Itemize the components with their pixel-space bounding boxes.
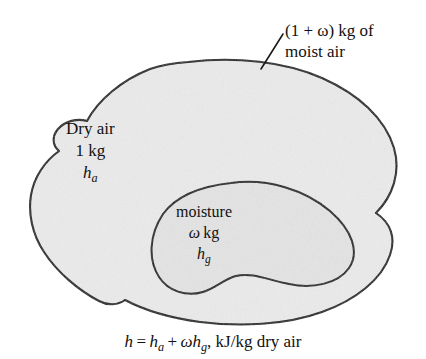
moisture-line-1: moisture xyxy=(176,202,232,223)
callout-line-2: moist air xyxy=(285,41,374,62)
moisture-unit: kg xyxy=(203,224,219,241)
dry-air-enthalpy-symbol: ha xyxy=(66,162,115,187)
moisture-h-subscript: g xyxy=(205,252,211,264)
caption-omega: ω xyxy=(180,332,192,351)
dry-air-h-subscript: a xyxy=(92,171,98,185)
dry-air-label: Dry air 1 kg ha xyxy=(66,118,115,187)
caption-ha-subscript: a xyxy=(158,340,164,354)
caption-equals: = xyxy=(136,332,146,351)
callout-line-1: (1 + ω) kg of xyxy=(285,20,374,41)
caption-inner: h = ha + ωhg, kJ/kg dry air xyxy=(124,332,301,351)
caption-units: , kJ/kg dry air xyxy=(207,332,301,351)
caption-hg: h xyxy=(192,332,201,351)
caption-plus: + xyxy=(167,332,177,351)
moisture-label: moisture ω kg hg xyxy=(176,202,232,266)
moisture-line-2: ω kg xyxy=(176,223,232,244)
moist-air-callout-label: (1 + ω) kg of moist air xyxy=(285,20,374,63)
moisture-omega: ω xyxy=(189,224,200,241)
moisture-enthalpy-symbol: hg xyxy=(176,244,232,267)
dry-air-h: h xyxy=(83,163,92,182)
caption-ha: h xyxy=(149,332,158,351)
dry-air-line-2: 1 kg xyxy=(66,140,115,162)
moisture-h: h xyxy=(197,245,205,262)
figure-canvas: (1 + ω) kg of moist air Dry air 1 kg ha … xyxy=(0,0,426,359)
dry-air-line-1: Dry air xyxy=(66,118,115,140)
figure-caption-equation: h = ha + ωhg, kJ/kg dry air xyxy=(0,332,426,354)
caption-h: h xyxy=(124,332,133,351)
